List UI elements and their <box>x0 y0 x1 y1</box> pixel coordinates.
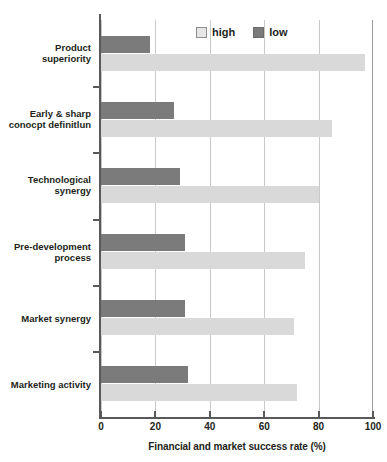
bar-chart: 020406080100 Financial and market succes… <box>0 0 387 462</box>
gridline-0 <box>101 20 102 417</box>
y-axis-line <box>99 14 101 418</box>
bar-low-0 <box>101 36 150 53</box>
bar-low-3 <box>101 234 185 251</box>
bar-low-4 <box>101 300 185 317</box>
bar-high-1 <box>101 120 332 137</box>
x-tick-80 <box>318 411 320 419</box>
legend-swatch-low-icon <box>253 27 264 38</box>
x-tick-label-60: 60 <box>259 421 270 432</box>
x-tick-0 <box>100 411 102 419</box>
y-tick-5 <box>93 351 101 353</box>
category-label-line: Pre-development <box>3 241 91 252</box>
category-label-line: Marketing activity <box>3 378 91 389</box>
y-tick-1 <box>93 86 101 88</box>
x-tick-label-40: 40 <box>204 421 215 432</box>
category-label-line: Market synergy <box>3 312 91 323</box>
x-tick-label-80: 80 <box>313 421 324 432</box>
category-label-line: synergy <box>3 185 91 196</box>
y-tick-2 <box>93 152 101 154</box>
gridline-20 <box>155 20 156 417</box>
gridline-80 <box>319 20 320 417</box>
gridline-100 <box>372 20 373 417</box>
x-tick-label-100: 100 <box>365 421 382 432</box>
category-label-2: Technologicalsynergy <box>3 174 91 196</box>
x-tick-100 <box>372 411 374 419</box>
bar-low-1 <box>101 102 174 119</box>
bar-low-2 <box>101 168 180 185</box>
category-label-1: Early & sharpconocpt definitlun <box>3 108 91 130</box>
bar-high-2 <box>101 186 319 203</box>
y-tick-3 <box>93 219 101 221</box>
bar-high-4 <box>101 318 294 335</box>
gridline-40 <box>210 20 211 417</box>
x-tick-label-20: 20 <box>150 421 161 432</box>
category-label-line: process <box>3 252 91 263</box>
bar-high-3 <box>101 252 305 269</box>
x-axis-line <box>99 417 375 419</box>
x-axis-title: Financial and market success rate (%) <box>101 441 373 452</box>
category-label-0: Productsuperiority <box>3 42 91 64</box>
category-label-line: Product <box>3 42 91 53</box>
category-label-5: Marketing activity <box>3 378 91 389</box>
legend-label-high: high <box>212 26 235 38</box>
gridline-60 <box>264 20 265 417</box>
category-label-3: Pre-developmentprocess <box>3 241 91 263</box>
category-label-line: superiority <box>3 53 91 64</box>
bar-high-5 <box>101 384 297 401</box>
x-tick-20 <box>154 411 156 419</box>
plot-area <box>101 20 373 417</box>
category-label-4: Market synergy <box>3 312 91 323</box>
legend-item-high: high <box>196 26 235 38</box>
legend-item-low: low <box>253 26 287 38</box>
x-tick-40 <box>209 411 211 419</box>
x-tick-60 <box>263 411 265 419</box>
x-tick-label-0: 0 <box>98 421 104 432</box>
bar-high-0 <box>101 54 365 71</box>
y-tick-4 <box>93 285 101 287</box>
legend-label-low: low <box>269 26 287 38</box>
category-label-line: Early & sharp <box>3 108 91 119</box>
category-label-line: conocpt definitlun <box>3 119 91 130</box>
bar-low-5 <box>101 366 188 383</box>
chart-legend: high low <box>196 26 288 38</box>
legend-swatch-high-icon <box>196 27 207 38</box>
category-label-line: Technological <box>3 174 91 185</box>
